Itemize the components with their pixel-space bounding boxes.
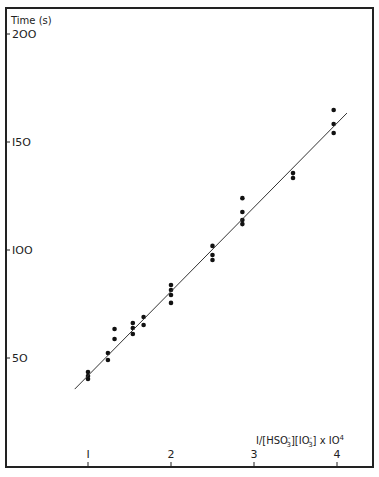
- x-tick-label: 4: [334, 448, 341, 461]
- data-point: [131, 321, 136, 326]
- data-point: [112, 327, 117, 332]
- plot-frame: [6, 8, 373, 467]
- data-point: [141, 323, 146, 328]
- x-tick-label: I: [86, 448, 89, 461]
- data-point: [106, 358, 111, 363]
- x-tick-label: 3: [251, 448, 258, 461]
- y-axis-label: Time (s): [10, 15, 52, 26]
- scatter-chart: 5OIOOI5O2OO I234 Time (s) I/[HSO-3][IO-3…: [0, 0, 379, 477]
- data-point: [240, 210, 245, 215]
- fit-line: [75, 113, 347, 389]
- data-point: [210, 253, 215, 258]
- y-tick-label: 5O: [12, 352, 28, 365]
- data-point: [240, 218, 245, 223]
- data-point: [331, 122, 336, 127]
- y-tick-label: IOO: [12, 244, 33, 257]
- data-point: [112, 337, 117, 342]
- data-point: [240, 196, 245, 201]
- data-point: [169, 283, 174, 288]
- y-tick-label: I5O: [12, 136, 31, 149]
- data-point: [331, 131, 336, 136]
- x-axis-ticks: I234: [86, 448, 340, 467]
- x-axis-label: I/[HSO-3][IO-3] x IO4: [256, 434, 345, 449]
- data-point: [291, 176, 296, 181]
- y-tick-label: 2OO: [12, 28, 37, 41]
- data-series: [75, 108, 347, 389]
- data-point: [331, 108, 336, 113]
- x-tick-label: 2: [168, 448, 175, 461]
- data-point: [291, 171, 296, 176]
- data-point: [169, 301, 174, 306]
- data-point: [106, 351, 111, 356]
- y-axis-ticks: 5OIOOI5O2OO: [6, 28, 37, 365]
- data-point: [210, 258, 215, 263]
- data-point: [240, 222, 245, 227]
